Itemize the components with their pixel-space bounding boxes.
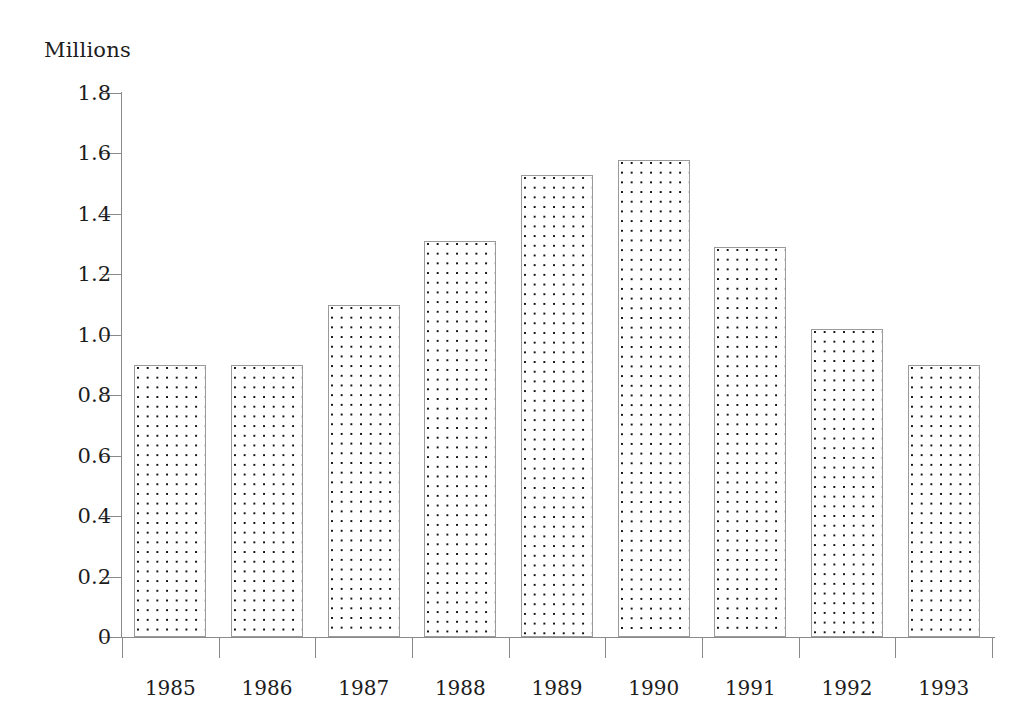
x-axis-tick-mark: [895, 637, 896, 658]
bar: [231, 365, 303, 637]
bar: [521, 175, 593, 637]
x-axis-tick-mark: [412, 637, 413, 658]
bar: [618, 160, 690, 638]
x-axis-tick-mark: [219, 637, 220, 658]
x-axis-tick-mark: [992, 637, 993, 658]
y-axis-tick-label: 1.2: [78, 262, 111, 286]
x-axis-tick-mark: [605, 637, 606, 658]
x-axis-tick-label: 1985: [145, 676, 196, 700]
y-axis-unit-label: Millions: [44, 38, 131, 62]
x-axis-tick-mark: [702, 637, 703, 658]
y-axis-tick-label: 1.8: [78, 81, 111, 105]
bar: [134, 365, 206, 637]
bar: [714, 247, 786, 637]
x-axis-line: [100, 637, 995, 638]
x-axis-tick-label: 1989: [532, 676, 583, 700]
bar-chart: Millions 00.20.40.60.81.01.21.41.61.8 19…: [0, 0, 1024, 727]
x-axis-tick-label: 1987: [338, 676, 389, 700]
y-axis-tick-label: 0.4: [78, 504, 111, 528]
y-axis-tick-label: 1.6: [78, 141, 111, 165]
x-axis-tick-mark: [122, 637, 123, 658]
x-axis-tick-label: 1991: [725, 676, 776, 700]
plot-area: 00.20.40.60.81.01.21.41.61.8: [122, 93, 992, 637]
x-axis-tick-label: 1986: [242, 676, 293, 700]
bar: [328, 305, 400, 637]
x-axis-tick-label: 1992: [822, 676, 873, 700]
y-axis-tick-label: 1.4: [78, 202, 111, 226]
y-axis-tick-label: 0.8: [78, 383, 111, 407]
y-axis-tick-label: 0: [98, 625, 111, 649]
y-axis-tick-label: 1.0: [78, 323, 111, 347]
x-axis-tick-label: 1988: [435, 676, 486, 700]
x-axis-tick-label: 1993: [918, 676, 969, 700]
bar: [424, 241, 496, 637]
x-axis-tick-label: 1990: [628, 676, 679, 700]
bar: [908, 365, 980, 637]
x-axis-tick-mark: [315, 637, 316, 658]
x-axis-tick-mark: [509, 637, 510, 658]
y-axis-tick-label: 0.2: [78, 565, 111, 589]
bar: [811, 329, 883, 637]
y-axis-tick-label: 0.6: [78, 444, 111, 468]
x-axis-tick-mark: [799, 637, 800, 658]
